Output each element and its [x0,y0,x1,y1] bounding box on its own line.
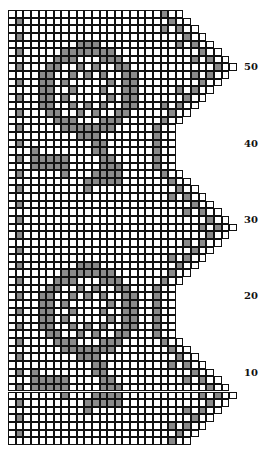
chart-cell [39,193,47,201]
chart-cell [183,437,191,445]
chart-cell [145,71,153,79]
chart-cell [130,338,138,346]
chart-cell [61,117,69,125]
chart-cell [122,109,130,117]
chart-cell [130,170,138,178]
chart-cell [84,56,92,64]
chart-cell [115,430,123,438]
chart-cell [92,117,100,125]
chart-cell [115,117,123,125]
chart-cell [176,48,184,56]
chart-cell [92,292,100,300]
chart-cell [176,346,184,354]
chart-cell [130,41,138,49]
chart-cell [138,18,146,26]
chart-cell [84,163,92,171]
chart-cell [222,216,230,224]
chart-cell [206,216,214,224]
chart-cell [100,430,108,438]
chart-cell [183,48,191,56]
chart-cell [100,399,108,407]
chart-cell [168,430,176,438]
chart-cell [84,216,92,224]
chart-cell [39,414,47,422]
chart-cell [39,201,47,209]
chart-cell [161,361,169,369]
chart-cell [191,407,199,415]
chart-cell [176,109,184,117]
chart-cell [100,18,108,26]
chart-cell [161,247,169,255]
chart-cell [168,285,176,293]
chart-cell [130,422,138,430]
chart-cell [115,109,123,117]
chart-cell [100,277,108,285]
chart-cell [77,102,85,110]
chart-cell [107,155,115,163]
chart-cell [23,178,31,186]
chart-cell [92,216,100,224]
chart-cell [31,140,39,148]
chart-cell [168,71,176,79]
chart-cell [92,102,100,110]
chart-cell [92,300,100,308]
chart-cell [46,353,54,361]
chart-cell [145,254,153,262]
chart-cell [92,277,100,285]
chart-cell [77,147,85,155]
chart-cell [8,208,16,216]
chart-cell [176,117,184,125]
chart-cell [153,163,161,171]
chart-cell [61,56,69,64]
chart-cell [46,285,54,293]
chart-cell [161,48,169,56]
chart-cell [122,308,130,316]
row-label-40: 40 [244,138,258,149]
chart-cell [115,369,123,377]
chart-cell [161,25,169,33]
chart-cell [161,392,169,400]
chart-cell [199,247,207,255]
chart-cell [39,285,47,293]
chart-cell [84,399,92,407]
chart-cell [61,262,69,270]
chart-cell [122,277,130,285]
chart-cell [8,247,16,255]
chart-cell [54,422,62,430]
chart-cell [92,140,100,148]
chart-cell [84,124,92,132]
chart-cell [153,71,161,79]
chart-cell [122,124,130,132]
chart-cell [122,239,130,247]
chart-cell [130,10,138,18]
chart-cell [153,422,161,430]
chart-cell [69,269,77,277]
chart-cell [100,330,108,338]
chart-cell [46,86,54,94]
chart-cell [54,330,62,338]
chart-cell [31,269,39,277]
chart-cell [176,231,184,239]
chart-cell [61,208,69,216]
chart-cell [31,338,39,346]
chart-cell [84,185,92,193]
chart-cell [138,422,146,430]
chart-cell [39,353,47,361]
chart-cell [23,86,31,94]
chart-cell [100,201,108,209]
chart-cell [92,94,100,102]
chart-cell [77,399,85,407]
chart-cell [84,63,92,71]
chart-cell [84,117,92,125]
chart-cell [161,224,169,232]
chart-cell [115,414,123,422]
chart-cell [138,392,146,400]
chart-cell [145,376,153,384]
chart-cell [138,155,146,163]
chart-cell [145,407,153,415]
chart-cell [191,399,199,407]
chart-cell [130,94,138,102]
chart-cell [107,86,115,94]
chart-cell [23,155,31,163]
chart-cell [100,33,108,41]
